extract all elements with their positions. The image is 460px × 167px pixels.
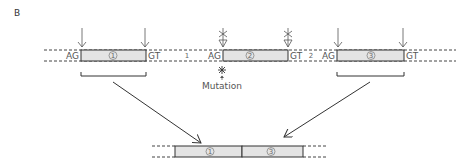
mutation-marker: Mutation xyxy=(202,66,242,91)
mutation-label: Mutation xyxy=(202,81,242,91)
exon-2: 2 AG GT xyxy=(208,50,303,61)
exon-2-number: 2 xyxy=(248,52,252,60)
join-arrow-exon-1 xyxy=(113,82,201,143)
join-arrow-exon-3 xyxy=(284,82,370,137)
exon-1-acceptor-site: AG xyxy=(66,51,79,61)
exon-3-donor-site: GT xyxy=(406,51,419,61)
exon-2-donor-site: GT xyxy=(290,51,303,61)
intron-1-number: 1 xyxy=(185,52,189,60)
exon-skipping-diagram: B 1 AG GT 1 2 AG GT xyxy=(0,0,460,167)
exon-3-acceptor-site: AG xyxy=(322,51,335,61)
spliced-exon-1: 1 xyxy=(175,146,242,157)
panel-label: B xyxy=(14,8,20,18)
exon-3-number: 3 xyxy=(369,52,373,60)
exon-3-splice-arrows xyxy=(334,28,407,47)
exon-3: 3 AG GT xyxy=(322,50,419,61)
mutation-star-icon xyxy=(218,66,226,74)
exon-1-number: 1 xyxy=(111,52,115,60)
exon-2-acceptor-site: AG xyxy=(208,51,221,61)
spliced-exon-3-number: 3 xyxy=(269,148,273,156)
exon-1-bracket xyxy=(81,72,146,76)
spliced-exon-3: 3 xyxy=(242,146,303,157)
intron-2-number: 2 xyxy=(309,52,313,60)
exon-2-blocked-splice-arrows xyxy=(219,28,292,47)
exon-1: 1 AG GT xyxy=(66,50,161,61)
spliced-exon-1-number: 1 xyxy=(208,148,212,156)
exon-3-bracket xyxy=(337,72,404,76)
exon-1-splice-arrows xyxy=(78,28,149,47)
exon-1-donor-site: GT xyxy=(148,51,161,61)
